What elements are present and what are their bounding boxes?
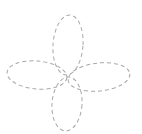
petal-left — [6, 58, 68, 91]
petal-right — [67, 60, 132, 94]
flower-diagram — [0, 0, 142, 134]
petal-bottom — [50, 76, 84, 132]
petal-top — [51, 14, 85, 76]
